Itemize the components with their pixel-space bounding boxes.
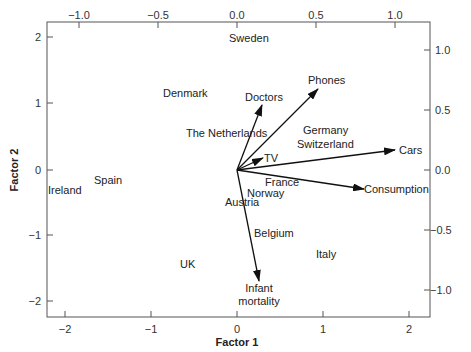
- left-axis: [47, 37, 53, 301]
- point-ireland: Ireland: [48, 184, 82, 196]
- vector-label-cars: Cars: [399, 144, 423, 156]
- bottom-tick-label: 1: [320, 323, 326, 335]
- vector-label-infant: Infant: [245, 282, 273, 294]
- bottom-tick-label: 2: [406, 323, 412, 335]
- point-uk: UK: [180, 258, 196, 270]
- top-tick-label: 0.0: [229, 9, 244, 21]
- point-sweden: Sweden: [229, 32, 269, 44]
- right-tick-label: −1.0: [430, 284, 452, 296]
- y-axis-title: Factor 2: [8, 149, 20, 192]
- point-belgium: Belgium: [254, 227, 294, 239]
- right-tick-label: 0.5: [435, 104, 450, 116]
- left-tick-label: 1: [35, 97, 41, 109]
- point-austria: Austria: [225, 196, 260, 208]
- bottom-tick-label: 0: [234, 323, 240, 335]
- top-tick-label: −1.0: [68, 9, 90, 21]
- point-netherlands: The Netherlands: [186, 127, 268, 139]
- vector-label-consumption: Consumption: [364, 183, 429, 195]
- vector-label-doctors: Doctors: [245, 91, 283, 103]
- bottom-tick-label: −1: [145, 323, 158, 335]
- right-tick-label: 1.0: [435, 44, 450, 56]
- biplot-chart: −2 −1 0 1 2 2 1 0 −1 −2 −1.0 −0.5 0.0 0.…: [0, 0, 471, 352]
- left-tick-label: 2: [35, 31, 41, 43]
- right-tick-label: 0.0: [435, 164, 450, 176]
- left-tick-label: 0: [35, 164, 41, 176]
- vector-label-tv: TV: [264, 152, 279, 164]
- bottom-tick-label: −2: [59, 323, 72, 335]
- bottom-axis: [65, 311, 409, 317]
- point-spain: Spain: [94, 174, 122, 186]
- left-tick-label: −1: [28, 229, 41, 241]
- right-axis: [424, 50, 430, 290]
- point-germany: Germany: [303, 124, 349, 136]
- top-axis: [79, 22, 395, 28]
- vector-label-phones: Phones: [308, 74, 346, 86]
- right-tick-label: −0.5: [430, 224, 452, 236]
- point-italy: Italy: [316, 248, 337, 260]
- country-points: Sweden Denmark The Netherlands Germany S…: [48, 32, 354, 270]
- left-tick-label: −2: [28, 295, 41, 307]
- x-axis-title: Factor 1: [216, 336, 259, 348]
- point-switzerland: Switzerland: [297, 138, 354, 150]
- point-denmark: Denmark: [163, 87, 208, 99]
- top-tick-label: −0.5: [147, 9, 169, 21]
- top-tick-label: 1.0: [387, 9, 402, 21]
- vector-cars: [237, 150, 395, 170]
- top-tick-label: 0.5: [308, 9, 323, 21]
- vector-label-mortality: mortality: [238, 295, 280, 307]
